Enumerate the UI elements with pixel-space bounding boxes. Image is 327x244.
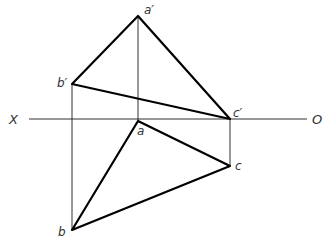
axis-label-x: X — [8, 112, 19, 127]
label-b-prime: b′ — [57, 76, 68, 90]
top-view-triangle — [72, 121, 230, 230]
label-a-prime: a′ — [144, 3, 154, 17]
front-view-triangle — [72, 16, 230, 119]
label-a: a — [137, 124, 144, 138]
label-b: b — [58, 225, 66, 239]
label-c: c — [235, 159, 242, 173]
projection-diagram: X O a′ b′ c′ a c b — [0, 0, 327, 244]
axis-label-o: O — [312, 112, 322, 127]
label-c-prime: c′ — [233, 106, 243, 120]
